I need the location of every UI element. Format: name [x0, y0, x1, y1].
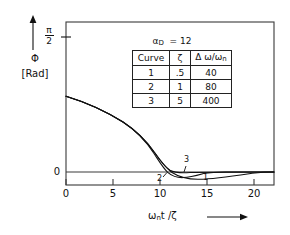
inset-table-title: αD = 12 — [132, 36, 212, 48]
x-tick-label-20: 20 — [244, 188, 264, 199]
x-tick-label-5: 5 — [103, 188, 123, 199]
cell-curve: 2 — [133, 80, 170, 94]
table-row: 1 .5 40 — [133, 66, 232, 80]
parameter-table: Curve ζ Δ ω/ωn 1 .5 40 2 1 80 3 5 400 — [132, 50, 232, 108]
table-header-row: Curve ζ Δ ω/ωn — [133, 51, 232, 66]
y-tick-label-zero: 0 — [46, 166, 60, 177]
cell-delta-omega: 400 — [191, 94, 232, 108]
y-tick-pi-denominator: 2 — [45, 37, 54, 46]
column-header-zeta: ζ — [170, 51, 191, 66]
x-tick-label-10: 10 — [150, 188, 170, 199]
right-arrow-icon — [207, 214, 248, 220]
chart-figure: π 2 Φ [Rad] 0 0 5 10 15 20 ωnt /ζ αD = 1… — [0, 0, 290, 235]
curve-label-2: 2 — [157, 175, 162, 183]
data-curve-2 — [66, 96, 274, 177]
x-tick-label-15: 15 — [197, 188, 217, 199]
cell-delta-omega: 40 — [191, 66, 232, 80]
x-tick-label-0: 0 — [56, 188, 76, 199]
cell-zeta: .5 — [170, 66, 191, 80]
column-header-delta-omega: Δ ω/ωn — [191, 51, 232, 66]
alpha-value: = 12 — [170, 36, 192, 46]
curve-label-3: 3 — [184, 156, 189, 164]
y-axis-label: Φ — [26, 53, 44, 64]
cell-delta-omega: 80 — [191, 80, 232, 94]
alpha-subscript: D — [158, 39, 163, 47]
cell-zeta: 5 — [170, 94, 191, 108]
curve-label-1: 1 — [203, 174, 208, 182]
cell-curve: 3 — [133, 94, 170, 108]
data-curve-1 — [66, 96, 274, 179]
column-header-curve: Curve — [133, 51, 170, 66]
table-row: 3 5 400 — [133, 94, 232, 108]
table-row: 2 1 80 — [133, 80, 232, 94]
cell-zeta: 1 — [170, 80, 191, 94]
up-arrow-icon — [30, 15, 37, 50]
x-axis-label-rest: t /ζ — [161, 210, 177, 221]
cell-curve: 1 — [133, 66, 170, 80]
y-tick-pi-numerator: π — [45, 26, 54, 35]
x-axis-label: ωnt /ζ — [148, 210, 208, 224]
y-tick-label-pi-half: π 2 — [38, 26, 60, 46]
delta-omega-subscript: n — [222, 55, 226, 63]
y-axis-unit-label: [Rad] — [14, 68, 56, 79]
